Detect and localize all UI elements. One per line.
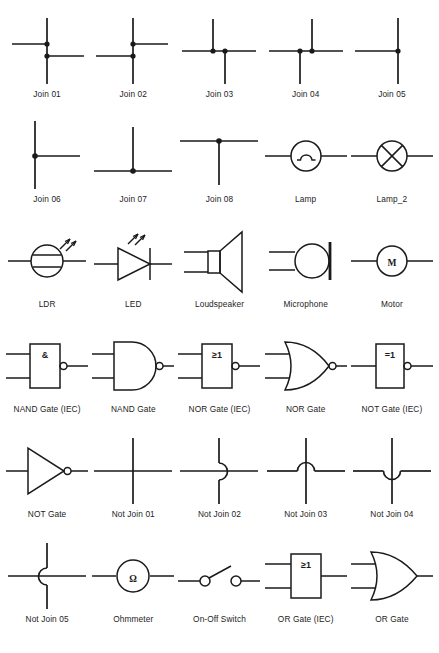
lamp-2-icon — [349, 119, 435, 193]
ohmmeter-icon: Ω — [90, 539, 176, 613]
join-03-icon — [176, 14, 262, 88]
symbol-caption: Microphone — [284, 299, 328, 309]
not-iec-label: =1 — [385, 350, 395, 360]
symbol-cell-join-08[interactable]: Join 08 — [176, 119, 262, 224]
or-gate-icon — [349, 539, 435, 613]
symbol-cell-nor-gate-iec[interactable]: ≥1 NOR Gate (IEC) — [176, 329, 262, 434]
symbol-cell-lamp-2[interactable]: Lamp_2 — [349, 119, 435, 224]
symbol-cell-join-06[interactable]: Join 06 — [4, 119, 90, 224]
not-join-05-icon — [4, 539, 90, 613]
nand-gate-iec-icon: & — [4, 329, 90, 403]
not-join-01-icon — [90, 434, 176, 508]
symbol-cell-join-01[interactable]: Join 01 — [4, 14, 90, 119]
join-07-icon — [90, 119, 176, 193]
symbol-caption: Join 08 — [206, 194, 233, 204]
symbol-cell-join-02[interactable]: Join 02 — [90, 14, 176, 119]
join-02-icon — [90, 14, 176, 88]
symbol-cell-join-07[interactable]: Join 07 — [90, 119, 176, 224]
symbol-caption: On-Off Switch — [193, 614, 246, 624]
not-gate-icon — [4, 434, 90, 508]
symbol-cell-not-join-03[interactable]: Not Join 03 — [263, 434, 349, 539]
symbol-caption: NOT Gate — [28, 509, 66, 519]
ohmmeter-label: Ω — [129, 574, 137, 584]
symbol-caption: NOR Gate — [286, 404, 326, 414]
symbol-cell-or-gate-iec[interactable]: ≥1 OR Gate (IEC) — [263, 539, 349, 644]
symbol-caption: Join 03 — [206, 89, 233, 99]
symbol-cell-join-05[interactable]: Join 05 — [349, 14, 435, 119]
nand-gate-icon — [90, 329, 176, 403]
or-gate-iec-icon: ≥1 — [263, 539, 349, 613]
symbol-caption: Lamp_2 — [377, 194, 408, 204]
not-join-02-icon — [176, 434, 262, 508]
symbol-cell-join-04[interactable]: Join 04 — [263, 14, 349, 119]
loudspeaker-icon — [176, 224, 262, 298]
symbol-caption: NOR Gate (IEC) — [189, 404, 251, 414]
symbol-caption: NAND Gate — [111, 404, 156, 414]
symbol-grid: Join 01 Join 02 Join 03 — [4, 14, 435, 644]
symbol-caption: OR Gate (IEC) — [278, 614, 334, 624]
symbol-cell-not-join-01[interactable]: Not Join 01 — [90, 434, 176, 539]
nor-gate-icon — [263, 329, 349, 403]
symbol-caption: LDR — [39, 299, 56, 309]
symbol-cell-not-gate[interactable]: NOT Gate — [4, 434, 90, 539]
symbol-caption: Not Join 02 — [198, 509, 241, 519]
join-05-icon — [349, 14, 435, 88]
symbol-cell-nor-gate[interactable]: NOR Gate — [263, 329, 349, 434]
symbol-caption: Join 06 — [33, 194, 60, 204]
symbol-cell-nand-gate-iec[interactable]: & NAND Gate (IEC) — [4, 329, 90, 434]
symbol-caption: Join 05 — [378, 89, 405, 99]
symbol-caption: NAND Gate (IEC) — [14, 404, 81, 414]
symbol-cell-not-gate-iec[interactable]: =1 NOT Gate (IEC) — [349, 329, 435, 434]
symbol-cell-microphone[interactable]: Microphone — [263, 224, 349, 329]
join-06-icon — [4, 119, 90, 193]
on-off-switch-icon — [176, 539, 262, 613]
symbol-caption: Loudspeaker — [195, 299, 244, 309]
symbol-cell-ldr[interactable]: LDR — [4, 224, 90, 329]
not-join-03-icon — [263, 434, 349, 508]
symbol-cell-nand-gate[interactable]: NAND Gate — [90, 329, 176, 434]
symbol-caption: Join 02 — [120, 89, 147, 99]
symbol-caption: NOT Gate (IEC) — [362, 404, 423, 414]
symbol-sheet: Join 01 Join 02 Join 03 — [0, 0, 439, 653]
symbol-caption: Lamp — [295, 194, 316, 204]
symbol-caption: Join 07 — [120, 194, 147, 204]
symbol-cell-join-03[interactable]: Join 03 — [176, 14, 262, 119]
symbol-caption: Not Join 04 — [370, 509, 413, 519]
motor-icon: M — [349, 224, 435, 298]
nand-iec-label: & — [42, 350, 49, 360]
symbol-cell-not-join-04[interactable]: Not Join 04 — [349, 434, 435, 539]
symbol-caption: OR Gate — [375, 614, 408, 624]
nor-gate-iec-icon: ≥1 — [176, 329, 262, 403]
symbol-cell-loudspeaker[interactable]: Loudspeaker — [176, 224, 262, 329]
symbol-cell-not-join-05[interactable]: Not Join 05 — [4, 539, 90, 644]
motor-label: M — [387, 258, 396, 268]
symbol-cell-on-off-switch[interactable]: On-Off Switch — [176, 539, 262, 644]
join-01-icon — [4, 14, 90, 88]
symbol-cell-ohmmeter[interactable]: Ω Ohmmeter — [90, 539, 176, 644]
or-iec-label: ≥1 — [301, 560, 311, 570]
led-icon — [90, 224, 176, 298]
not-join-04-icon — [349, 434, 435, 508]
join-08-icon — [176, 119, 262, 193]
symbol-cell-or-gate[interactable]: OR Gate — [349, 539, 435, 644]
ldr-icon — [4, 224, 90, 298]
symbol-cell-led[interactable]: LED — [90, 224, 176, 329]
nor-iec-label: ≥1 — [213, 350, 223, 360]
symbol-caption: Join 04 — [292, 89, 319, 99]
symbol-caption: Join 01 — [33, 89, 60, 99]
symbol-cell-lamp[interactable]: Lamp — [263, 119, 349, 224]
symbol-caption: Not Join 03 — [284, 509, 327, 519]
symbol-caption: Not Join 05 — [26, 614, 69, 624]
symbol-cell-motor[interactable]: M Motor — [349, 224, 435, 329]
symbol-caption: Ohmmeter — [113, 614, 153, 624]
not-gate-iec-icon: =1 — [349, 329, 435, 403]
symbol-cell-not-join-02[interactable]: Not Join 02 — [176, 434, 262, 539]
symbol-caption: Not Join 01 — [112, 509, 155, 519]
lamp-icon — [263, 119, 349, 193]
join-04-icon — [263, 14, 349, 88]
microphone-icon — [263, 224, 349, 298]
symbol-caption: Motor — [381, 299, 403, 309]
symbol-caption: LED — [125, 299, 141, 309]
